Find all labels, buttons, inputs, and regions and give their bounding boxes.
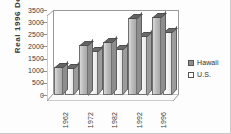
bar-front-face	[152, 17, 161, 95]
bar-chart-figure: Real 1996 Dollars 3500300025002000150010…	[0, 0, 231, 134]
bar-front-face	[79, 45, 88, 96]
bar-side-face	[88, 39, 93, 95]
bar-side-face	[112, 36, 117, 95]
legend-label: U.S.	[197, 71, 211, 78]
y-axis-tick-label: 0	[16, 92, 44, 99]
bar-hawaii	[103, 42, 112, 95]
x-axis-tick-label: 1982	[111, 108, 121, 132]
x-axis-tick-label: 1992	[136, 108, 146, 132]
y-axis-tick-label: 3500	[16, 7, 44, 14]
bar-hawaii	[54, 67, 63, 95]
legend-swatch-icon	[188, 60, 194, 66]
chart-legend: HawaiiU.S.	[188, 57, 230, 81]
y-axis-tick-label: 2500	[16, 31, 44, 38]
x-axis-tick-label: 1996	[160, 108, 170, 132]
y-axis-tick-label: 3000	[16, 19, 44, 26]
bar-group	[152, 10, 177, 101]
legend-entry: U.S.	[188, 69, 230, 80]
legend-entry: Hawaii	[188, 57, 230, 68]
x-axis-tick-labels: 19621972198219921996	[47, 101, 179, 134]
bar-front-face	[128, 18, 137, 95]
bar-front-face	[54, 67, 63, 95]
legend-swatch-icon	[188, 72, 194, 78]
legend-label: Hawaii	[197, 59, 219, 66]
bar-hawaii	[79, 45, 88, 96]
bar-group	[128, 10, 153, 101]
y-axis-tick-label: 2000	[16, 43, 44, 50]
y-axis-tick-label: 1500	[16, 55, 44, 62]
y-axis-tick-labels: 3500300025002000150010005000	[16, 10, 44, 104]
bar-side-face	[172, 26, 177, 95]
bar-hawaii	[128, 18, 137, 95]
x-axis-tick-label: 1962	[62, 108, 72, 132]
bar-side-face	[137, 12, 142, 95]
bar-side-face	[161, 11, 166, 95]
x-axis-tick-label: 1972	[87, 108, 97, 132]
y-axis-tick-label: 1000	[16, 67, 44, 74]
bar-group	[54, 10, 79, 101]
bar-hawaii	[152, 17, 161, 95]
y-axis-tick-label: 500	[16, 79, 44, 86]
plot-area	[47, 10, 179, 101]
bar-front-face	[103, 42, 112, 95]
bar-group	[79, 10, 104, 101]
bar-group	[103, 10, 128, 101]
